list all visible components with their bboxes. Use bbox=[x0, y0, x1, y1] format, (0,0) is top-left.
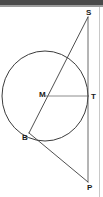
line-segment-s-b bbox=[29, 17, 88, 133]
point-label-s: S bbox=[86, 9, 91, 17]
geometry-canvas bbox=[0, 0, 103, 197]
point-label-p: P bbox=[87, 184, 92, 192]
geometry-figure: S T M B P bbox=[0, 0, 103, 197]
point-label-m: M bbox=[39, 91, 46, 99]
point-label-t: T bbox=[91, 93, 96, 101]
point-label-b: B bbox=[22, 134, 28, 142]
line-segment-b-p bbox=[29, 133, 88, 182]
